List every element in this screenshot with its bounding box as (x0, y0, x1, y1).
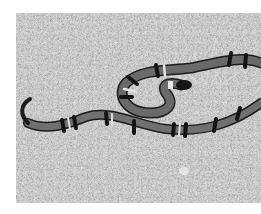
snake-photo (16, 13, 261, 203)
snake-head (176, 80, 192, 90)
snake-photo-svg (16, 13, 261, 203)
